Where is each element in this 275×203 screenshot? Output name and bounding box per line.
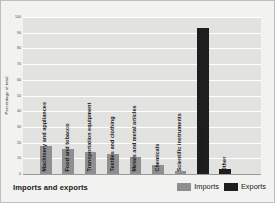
- y-tick-label: 40: [17, 109, 21, 113]
- category-label: Metals and metal articles: [132, 106, 138, 172]
- bar-group: Machinery and appliancesFood and tobacco…: [23, 17, 261, 174]
- y-axis-title-text: Percentage of total: [5, 77, 10, 115]
- chart-figure: Percentage of total 01020304050607080901…: [0, 0, 275, 203]
- category-label: Food and tobacco: [65, 124, 71, 172]
- y-tick-label: 90: [17, 31, 21, 35]
- y-tick-label: 80: [17, 46, 21, 50]
- legend: ImportsExports: [177, 182, 266, 191]
- x-axis-baseline: [23, 174, 261, 175]
- category-label: Textiles and clothing: [110, 117, 116, 172]
- y-tick-label: 30: [17, 125, 21, 129]
- category-label: Scientific instruments: [177, 114, 183, 172]
- y-tick-label: 70: [17, 62, 21, 66]
- chart-title: Imports and exports: [13, 183, 88, 192]
- y-tick-label: 60: [17, 78, 21, 82]
- y-axis-tick-labels: 0102030405060708090100: [11, 17, 22, 174]
- y-tick-label: 10: [17, 156, 21, 160]
- category-label: Other: [222, 157, 228, 172]
- legend-item[interactable]: Exports: [224, 182, 266, 191]
- y-tick-label: 100: [15, 15, 21, 19]
- y-tick-label: 0: [19, 172, 21, 176]
- category-label: Crude petroleum: [200, 127, 206, 172]
- bar-slot: [219, 17, 231, 174]
- legend-swatch: [177, 183, 191, 191]
- category-label: Chemicals: [155, 144, 161, 172]
- legend-item[interactable]: Imports: [177, 182, 219, 191]
- legend-label: Imports: [194, 182, 219, 191]
- legend-label: Exports: [241, 182, 266, 191]
- y-tick-label: 50: [17, 94, 21, 98]
- legend-swatch: [224, 183, 238, 191]
- y-tick-label: 20: [17, 141, 21, 145]
- category-label: Machinery and appliances: [43, 102, 49, 172]
- category-label: Transportation equipment: [88, 103, 94, 172]
